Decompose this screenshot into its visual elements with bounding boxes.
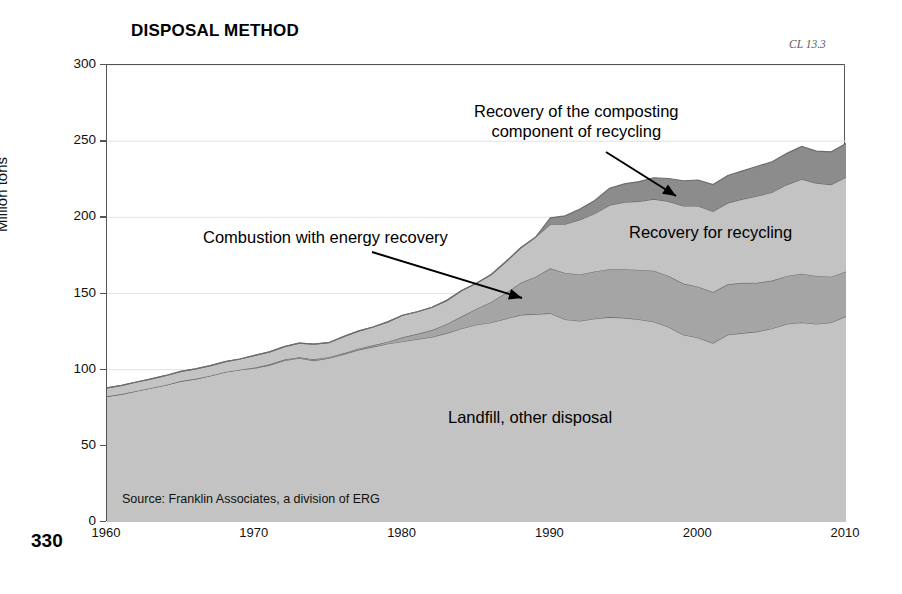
x-tick-label-2010: 2010: [815, 525, 875, 540]
y-tick-label-50: 50: [48, 438, 96, 452]
y-axis-title: Million tons: [0, 157, 10, 232]
y-tick-mark-0: [100, 521, 106, 522]
x-tick-label-1960: 1960: [76, 525, 136, 540]
recycling-label: Recovery for recycling: [629, 222, 792, 242]
chapter-code-label: CL 13.3: [789, 38, 826, 50]
y-tick-label-150: 150: [48, 286, 96, 300]
y-tick-label-250: 250: [48, 133, 96, 147]
landfill-label: Landfill, other disposal: [448, 407, 612, 427]
source-note: Source: Franklin Associates, a division …: [122, 492, 380, 506]
x-tick-label-1990: 1990: [519, 525, 579, 540]
y-tick-mark-200: [100, 216, 106, 217]
page-number: 330: [31, 530, 63, 552]
page-title: DISPOSAL METHOD: [131, 21, 299, 41]
x-tick-label-2000: 2000: [667, 525, 727, 540]
y-tick-label-300: 300: [48, 57, 96, 71]
y-tick-mark-300: [100, 64, 106, 65]
y-tick-label-100: 100: [48, 362, 96, 376]
y-tick-mark-50: [100, 445, 106, 446]
recycling-label-line1: Recovery for recycling: [629, 222, 792, 242]
figure-page: DISPOSAL METHOD CL 13.3 330 Million tons…: [0, 0, 902, 594]
composting-annotation-line2: component of recycling: [474, 121, 679, 141]
x-tick-label-1980: 1980: [372, 525, 432, 540]
y-tick-mark-150: [100, 293, 106, 294]
x-tick-label-1970: 1970: [224, 525, 284, 540]
composting-annotation-line1: Recovery of the composting: [474, 101, 679, 121]
combustion-annotation: Combustion with energy recovery: [203, 227, 448, 247]
combustion-annotation-line1: Combustion with energy recovery: [203, 227, 448, 247]
composting-annotation: Recovery of the compostingcomponent of r…: [474, 101, 679, 141]
landfill-label-line1: Landfill, other disposal: [448, 407, 612, 427]
y-tick-label-200: 200: [48, 209, 96, 223]
y-tick-mark-250: [100, 140, 106, 141]
y-tick-mark-100: [100, 369, 106, 370]
